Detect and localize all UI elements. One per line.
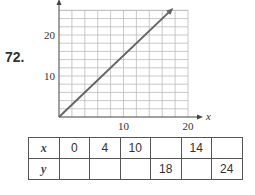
x-axis-label: x: [205, 110, 211, 122]
y-tick-label: 20: [44, 29, 56, 41]
line-chart: x 10201020: [0, 0, 255, 135]
table-cell: 14: [181, 138, 212, 159]
table-cell: [151, 138, 182, 159]
table-cell: 18: [151, 159, 182, 180]
x-tick-label: 20: [183, 120, 195, 132]
table-cell: 4: [90, 138, 121, 159]
table-row-y: y 18 24: [29, 159, 243, 180]
row-header-x: x: [29, 138, 60, 159]
table-cell: [59, 159, 90, 180]
y-axis-arrow-icon: [57, 0, 62, 5]
table-cell: [120, 159, 151, 180]
x-tick-label: 10: [118, 120, 130, 132]
table-cell: [90, 159, 121, 180]
chart-grid: [59, 10, 188, 117]
table-cell: 0: [59, 138, 90, 159]
table-cell: 10: [120, 138, 151, 159]
x-axis-arrow-icon: [197, 115, 203, 120]
xy-value-table: x 0 4 10 14 y 18 24: [28, 137, 243, 180]
table-cell: 24: [212, 159, 243, 180]
table-cell: [181, 159, 212, 180]
table-row-x: x 0 4 10 14: [29, 138, 243, 159]
table-cell: [212, 138, 243, 159]
y-tick-label: 10: [44, 70, 56, 82]
row-header-y: y: [29, 159, 60, 180]
